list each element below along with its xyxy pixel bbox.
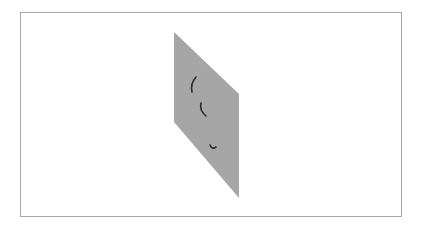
scene-canvas xyxy=(0,0,424,232)
gray-parallelogram-panel xyxy=(174,32,239,198)
